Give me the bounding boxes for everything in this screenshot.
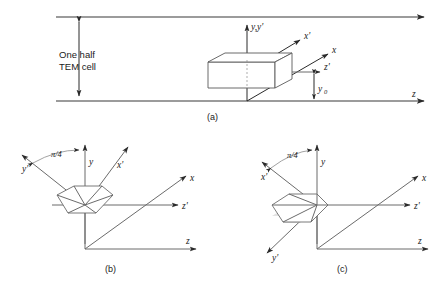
figure-svg: One half TEM cell y,y' x' x z' z <box>0 0 442 284</box>
axis-label-a-z: z <box>411 89 416 99</box>
panel-caption-a: (a) <box>207 112 218 122</box>
axis-label-c-yprime: y' <box>271 253 279 263</box>
axis-label-c-x: x <box>421 173 427 183</box>
annotation-one-half: One half <box>59 49 95 60</box>
axis-label-b-x: x <box>189 173 195 183</box>
panel-c: z x z' y x' <box>260 145 428 274</box>
axis-label-c-zprime: z' <box>413 201 421 211</box>
axis-label-a-y-yprime: y,y' <box>250 22 264 32</box>
axis-label-a-xprime: x' <box>303 31 311 41</box>
panel-caption-b: (b) <box>105 264 116 274</box>
test-object-hexagon-b <box>57 186 113 213</box>
axis-label-b-xprime: x' <box>116 160 124 170</box>
angle-label-b: π/4 <box>51 149 63 159</box>
panel-caption-c: (c) <box>337 264 348 274</box>
axis-label-c-xprime: x' <box>260 172 268 182</box>
axis-label-b-y: y <box>88 157 94 167</box>
axis-label-a-zprime: z' <box>323 62 331 72</box>
panel-a: One half TEM cell y,y' x' x z' z <box>56 17 424 122</box>
angle-label-c: π/4 <box>287 150 299 160</box>
y0-label-base: y <box>317 84 323 94</box>
axis-label-b-zprime: z' <box>181 201 189 211</box>
figure-root: One half TEM cell y,y' x' x z' z <box>0 0 442 284</box>
axis-label-c-y: y <box>320 157 326 167</box>
test-object-hexagon-c <box>272 194 328 223</box>
y0-label-subscript: 0 <box>324 88 328 95</box>
axis-label-b-z: z <box>185 236 190 246</box>
axis-c-x <box>317 176 418 249</box>
axis-label-c-z: z <box>417 236 422 246</box>
test-object-box <box>208 53 292 90</box>
annotation-tem-cell: TEM cell <box>59 61 96 72</box>
axis-label-a-x: x <box>331 45 337 55</box>
axis-label-b-yprime: y' <box>21 164 29 174</box>
panel-b: z x z' y x' <box>21 145 196 274</box>
